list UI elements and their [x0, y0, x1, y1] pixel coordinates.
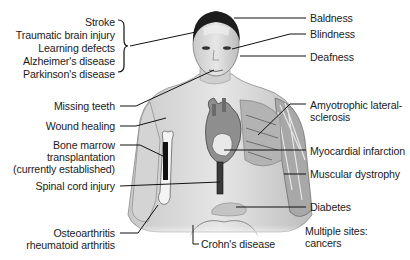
label-deafness: Deafness: [310, 51, 354, 63]
label-currently-established: (currently established): [13, 163, 115, 175]
label-learning-defects: Learning defects: [16, 42, 115, 55]
label-sclerosis: sclerosis: [310, 111, 402, 123]
label-spinal-cord-injury: Spinal cord injury: [36, 180, 115, 192]
als-label-group: Amyotrophic lateral- sclerosis: [310, 99, 402, 123]
bone-marrow-label-group: Bone marrow transplantation (currently e…: [13, 139, 115, 176]
head: [193, 11, 240, 76]
label-blindness: Blindness: [310, 28, 355, 40]
label-bone-marrow: Bone marrow: [13, 139, 115, 151]
multiple-sites-label-group: Multiple sites: cancers: [305, 225, 368, 249]
label-alzheimers: Alzheimer's disease: [16, 55, 115, 68]
label-amyotrophic-lateral: Amyotrophic lateral-: [310, 99, 402, 111]
label-crohns-disease: Crohn's disease: [201, 238, 275, 250]
label-osteoarthritis: Osteoarthritis: [26, 227, 115, 239]
label-traumatic-brain-injury: Traumatic brain injury: [16, 29, 115, 42]
brain-disorders-label-group: Stroke Traumatic brain injury Learning d…: [16, 16, 115, 81]
label-stroke: Stroke: [16, 16, 115, 29]
label-myocardial-infarction: Myocardial infarction: [310, 145, 405, 157]
arthritis-label-group: Osteoarthritis rheumatoid arthritis: [26, 227, 115, 251]
label-cancers: cancers: [305, 237, 368, 249]
label-multiple-sites: Multiple sites:: [305, 225, 368, 237]
label-rheumatoid-arthritis: rheumatoid arthritis: [26, 239, 115, 251]
label-missing-teeth: Missing teeth: [54, 100, 115, 112]
label-wound-healing: Wound healing: [46, 120, 115, 132]
label-transplantation: transplantation: [13, 151, 115, 163]
label-diabetes: Diabetes: [310, 201, 351, 213]
label-parkinsons: Parkinson's disease: [16, 68, 115, 81]
label-baldness: Baldness: [310, 12, 353, 24]
label-muscular-dystrophy: Muscular dystrophy: [310, 168, 400, 180]
